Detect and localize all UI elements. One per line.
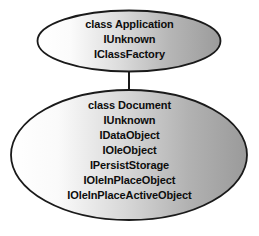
document-line-ioleobject: IOleObject xyxy=(0,143,259,158)
document-line-ioleinplaceactiveobject: IOleInPlaceActiveObject xyxy=(0,188,259,203)
document-line-ioleinplaceobject: IOleInPlaceObject xyxy=(0,173,259,188)
application-line-class: class Application xyxy=(0,17,259,32)
application-node-label: class Application IUnknown IClassFactory xyxy=(0,17,259,62)
document-line-idataobject: IDataObject xyxy=(0,128,259,143)
document-line-ipersiststorage: IPersistStorage xyxy=(0,158,259,173)
document-node-label: class Document IUnknown IDataObject IOle… xyxy=(0,98,259,203)
document-line-class: class Document xyxy=(0,98,259,113)
document-line-iunknown: IUnknown xyxy=(0,113,259,128)
application-line-iunknown: IUnknown xyxy=(0,32,259,47)
application-line-iclassfactory: IClassFactory xyxy=(0,47,259,62)
